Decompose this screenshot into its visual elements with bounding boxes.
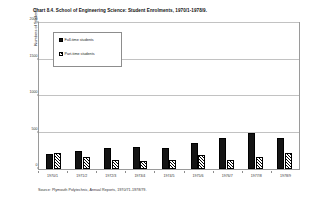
x-tick-text: 1970/1 [47,174,58,178]
bar-full-time [277,138,284,169]
legend-item-part-time: Part-time students [59,52,121,56]
bar-group [155,23,184,169]
x-tick-mark [271,171,272,173]
bar-full-time [162,148,169,169]
x-tick-label: 1974/5 [154,171,183,178]
x-tick-mark [184,171,185,173]
x-tick-label: 1975/6 [184,171,213,178]
bar-part-time [227,160,234,169]
bar-full-time [248,133,255,170]
bar-part-time [256,157,263,169]
bar-full-time [104,148,111,169]
chart-legend: Full-time students Part-time students [53,32,122,67]
y-tick-label: 2000 [29,17,37,21]
plot-area: Numbers of Students 0500100015002000 Ful… [38,22,300,170]
y-tick-label: 0 [35,163,37,167]
x-tick-label: 1972/3 [96,171,125,178]
legend-label-full-time: Full-time students [65,38,94,42]
bar-part-time [112,160,119,169]
chart-figure: Chart 8.4. School of Engineering Science… [0,0,315,204]
x-tick-label: 1973/4 [125,171,154,178]
x-tick-text: 1976/7 [222,174,233,178]
bar-full-time [219,138,226,169]
bar-part-time [54,153,61,169]
x-tick-mark [38,171,39,173]
bar-group [270,23,299,169]
y-axis-title: Numbers of Students [33,0,38,73]
y-tick-label: 500 [31,127,37,131]
bar-group [212,23,241,169]
x-tick-mark [125,171,126,173]
x-tick-label: 1978/9 [271,171,300,178]
x-tick-label: 1976/7 [213,171,242,178]
bar-full-time [133,147,140,169]
x-axis-ticks: 1970/11971/21972/31973/41974/51975/61976… [38,171,300,178]
y-tick-label: 1500 [29,54,37,58]
x-tick-text: 1971/2 [76,174,87,178]
legend-label-part-time: Part-time students [65,52,95,56]
x-tick-text: 1977/8 [251,174,262,178]
legend-swatch-full-time-icon [59,38,63,42]
chart-title: Chart 8.4. School of Engineering Science… [33,8,207,13]
legend-item-full-time: Full-time students [59,38,121,42]
bar-group [183,23,212,169]
bar-full-time [46,154,53,169]
x-tick-mark [213,171,214,173]
bar-group [126,23,155,169]
x-tick-text: 1975/6 [193,174,204,178]
bar-part-time [140,161,147,169]
x-tick-label: 1977/8 [242,171,271,178]
bar-group [241,23,270,169]
bar-part-time [285,153,292,169]
source-note: Source: Plymouth Polytechnic, Annual Rep… [38,188,146,192]
legend-swatch-part-time-icon [59,52,63,56]
bar-full-time [191,143,198,169]
x-tick-text: 1973/4 [134,174,145,178]
bar-part-time [169,160,176,169]
bar-full-time [75,151,82,169]
x-tick-label: 1970/1 [38,171,67,178]
y-tick-label: 1000 [29,90,37,94]
x-tick-mark [242,171,243,173]
x-tick-mark [154,171,155,173]
x-tick-text: 1972/3 [105,174,116,178]
bar-part-time [83,157,90,169]
x-tick-label: 1971/2 [67,171,96,178]
x-tick-text: 1978/9 [280,174,291,178]
x-tick-mark [96,171,97,173]
x-tick-mark [67,171,68,173]
bar-part-time [198,155,205,169]
x-tick-text: 1974/5 [163,174,174,178]
